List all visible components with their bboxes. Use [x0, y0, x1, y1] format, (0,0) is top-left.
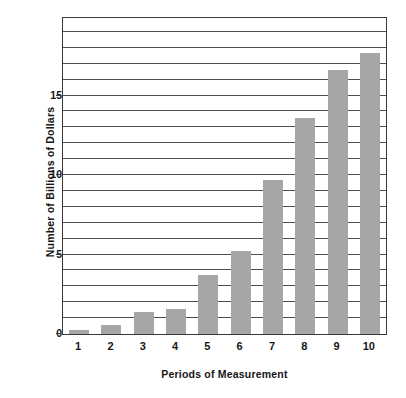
bar — [69, 330, 89, 334]
y-tick-mark — [56, 254, 61, 255]
bar — [328, 70, 348, 334]
bar — [198, 275, 218, 334]
x-axis-title: Periods of Measurement — [62, 368, 387, 380]
bar — [134, 312, 154, 334]
bar — [295, 118, 315, 334]
y-axis-ticks: 051015 — [12, 0, 62, 398]
x-axis-ticks: 12345678910 — [62, 340, 387, 358]
x-tick-label: 10 — [349, 340, 389, 352]
bar — [360, 53, 380, 334]
bars-layer — [63, 18, 386, 334]
bar — [231, 251, 251, 334]
y-tick-mark — [56, 174, 61, 175]
bar — [166, 309, 186, 334]
bar — [263, 180, 283, 334]
plot-area — [62, 17, 387, 335]
y-tick-mark — [56, 333, 61, 334]
bar — [101, 325, 121, 334]
bar-chart: Number of Billions of Dollars 051015 123… — [0, 0, 406, 398]
y-tick-mark — [56, 95, 61, 96]
